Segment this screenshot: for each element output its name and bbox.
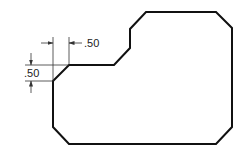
horizontal-chamfer-dimension: .50	[41, 37, 99, 81]
vertical-dimension-label: .50	[24, 67, 39, 79]
technical-drawing: .50 .50	[0, 0, 246, 150]
part-outline	[53, 12, 232, 144]
horizontal-dimension-label: .50	[84, 37, 99, 49]
